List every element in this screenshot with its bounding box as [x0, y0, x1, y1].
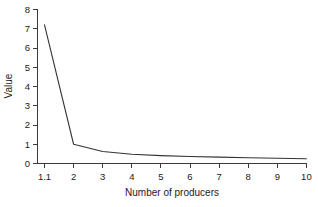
x-axis-title: Number of producers — [125, 187, 219, 198]
y-tick-label: 2 — [25, 119, 30, 130]
y-tick-label: 7 — [25, 23, 30, 34]
x-tick-label: 2 — [71, 171, 76, 182]
chart-canvas: 0 1 2 3 4 5 6 7 8 1.1 2 3 — [0, 0, 318, 207]
y-tick-label: 1 — [25, 139, 30, 150]
x-tick-label: 7 — [216, 171, 221, 182]
y-tick-label: 8 — [25, 4, 30, 15]
x-tick-label: 1.1 — [38, 171, 51, 182]
x-tick-label: 5 — [158, 171, 163, 182]
x-tick-label: 10 — [301, 171, 312, 182]
y-tick-label: 5 — [25, 62, 30, 73]
y-tick-label: 4 — [25, 81, 30, 92]
y-axis-tick-labels: 0 1 2 3 4 5 6 7 8 — [25, 4, 30, 169]
y-tick-label: 6 — [25, 42, 30, 53]
x-tick-label: 4 — [129, 171, 134, 182]
x-tick-label: 3 — [100, 171, 105, 182]
line-chart-figure: 0 1 2 3 4 5 6 7 8 1.1 2 3 — [0, 0, 318, 207]
x-tick-label: 9 — [275, 171, 280, 182]
x-tick-label: 6 — [187, 171, 192, 182]
y-tick-label: 3 — [25, 100, 30, 111]
y-tick-label: 0 — [25, 158, 30, 169]
x-tick-label: 8 — [246, 171, 251, 182]
y-axis-title: Value — [3, 73, 14, 98]
